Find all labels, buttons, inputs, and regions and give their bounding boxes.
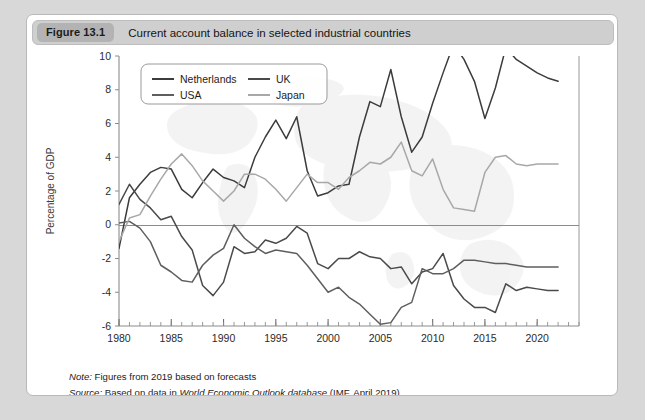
figure-header: Figure 13.1 Current account balance in s… [32, 20, 614, 45]
note-label: Note: [69, 371, 92, 382]
x-tick-label: 2000 [316, 332, 340, 344]
y-tick-label: -6 [102, 320, 111, 332]
chart-legend: NetherlandsUKUSAJapan [141, 64, 327, 104]
footnote-source: Source: Based on data in World Economic … [69, 387, 618, 396]
line-chart: -6-4-20246810 19801985199019952000200520… [32, 48, 614, 358]
x-tick-label: 2020 [526, 332, 550, 344]
legend-label-japan: Japan [276, 89, 305, 101]
source-label: Source: [69, 387, 102, 396]
figure-title: Current account balance in selected indu… [128, 27, 411, 39]
source-suffix: (IMF, April 2019) [330, 387, 400, 396]
figure-card: Figure 13.1 Current account balance in s… [26, 14, 618, 396]
source-italic-title: World Economic Outlook database [179, 387, 327, 396]
y-tick-label: 6 [105, 117, 111, 129]
y-tick-label: 4 [105, 151, 111, 163]
figure-footnotes: Note: Figures from 2019 based on forecas… [69, 371, 618, 396]
source-prefix: Based on data in [105, 387, 177, 396]
y-tick-label: 0 [105, 218, 111, 230]
footnote-note: Note: Figures from 2019 based on forecas… [69, 371, 618, 382]
legend-label-usa: USA [180, 89, 202, 101]
y-tick-label: -2 [102, 252, 111, 264]
y-axis-ticks: -6-4-20246810 [99, 50, 119, 332]
y-tick-label: 10 [99, 50, 111, 62]
legend-label-netherlands: Netherlands [180, 73, 237, 85]
x-tick-label: 1985 [160, 332, 184, 344]
x-tick-label: 1990 [212, 332, 236, 344]
legend-label-uk: UK [276, 73, 291, 85]
y-tick-label: 2 [105, 185, 111, 197]
x-axis-minor-ticks [119, 322, 579, 326]
x-tick-label: 2015 [473, 332, 497, 344]
y-axis-label: Percentage of GDP [45, 147, 56, 234]
world-map-backdrop [167, 77, 524, 296]
x-tick-label: 1995 [264, 332, 288, 344]
x-tick-label: 2010 [421, 332, 445, 344]
figure-number-badge: Figure 13.1 [37, 23, 114, 42]
y-tick-label: 8 [105, 83, 111, 95]
x-tick-label: 2005 [369, 332, 393, 344]
note-text: Figures from 2019 based on forecasts [95, 371, 257, 382]
chart-plot-area: -6-4-20246810 19801985199019952000200520… [32, 48, 614, 358]
x-tick-label: 1980 [107, 332, 131, 344]
y-tick-label: -4 [102, 286, 111, 298]
